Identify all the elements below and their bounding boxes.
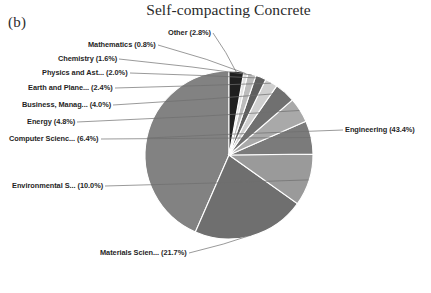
leader-line — [158, 45, 246, 74]
pie-slice-label: Earth and Plane... (2.4%) — [28, 83, 113, 92]
pie-slice-label: Chemistry (1.6%) — [58, 54, 117, 63]
pie-slice-label: Engineering (43.4%) — [345, 125, 415, 134]
pie-chart — [0, 0, 431, 293]
pie-slice-label: Computer Scienc... (6.4%) — [9, 134, 99, 143]
pie-slice-label: Mathematics (0.8%) — [88, 40, 156, 49]
pie-slice-label: Energy (4.8%) — [27, 117, 75, 126]
pie-slice-label: Business, Manag... (4.0%) — [22, 100, 111, 109]
figure-panel: (b) Self-compacting Concrete Engineering… — [0, 0, 431, 293]
pie-slice-label: Environmental S... (10.0%) — [12, 181, 103, 190]
pie-slice-label: Physics and Ast... (2.0%) — [42, 68, 128, 77]
leader-line — [119, 59, 252, 75]
pie-slice-group — [145, 71, 313, 239]
pie-slice-label: Other (2.8%) — [168, 28, 211, 37]
pie-slice-label: Materials Scien... (21.7%) — [100, 248, 187, 257]
